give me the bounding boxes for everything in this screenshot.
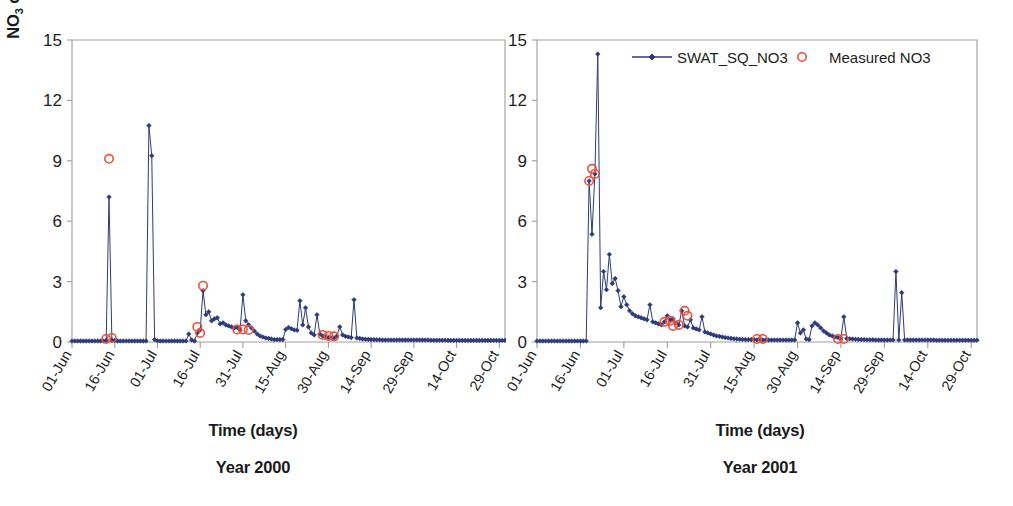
y-tick-label: 12	[508, 91, 527, 110]
data-point-diamond	[147, 123, 152, 128]
x-tick-label: 15-Aug	[719, 348, 756, 397]
series-markers-measured-no3	[102, 155, 338, 344]
x-tick-label: 15-Aug	[251, 348, 288, 397]
data-point-diamond	[613, 276, 618, 281]
data-point-diamond	[315, 313, 320, 318]
x-tick-label: 29-Oct	[466, 347, 502, 393]
data-point-diamond	[604, 287, 609, 292]
series-markers-swat-sq-no3	[70, 123, 506, 343]
data-point-diamond	[590, 232, 595, 237]
legend-label-measured-no3: Measured NO3	[829, 49, 931, 66]
data-point-diamond	[298, 298, 303, 303]
x-tick-label: 14-Sep	[336, 348, 373, 397]
y-tick-label: 12	[43, 91, 62, 110]
x-tick-label: 01-Jul	[593, 348, 627, 390]
x-tick-label: 14-Oct	[895, 348, 931, 394]
x-tick-label: 31-Jul	[212, 348, 246, 390]
data-point-diamond	[352, 297, 357, 302]
legend-label-swat-sq-no3: SWAT_SQ_NO3	[677, 49, 788, 66]
data-point-diamond	[241, 292, 246, 297]
data-point-diamond	[303, 305, 308, 310]
data-point-diamond	[648, 302, 653, 307]
data-point-diamond	[598, 305, 603, 310]
data-point-diamond	[610, 281, 615, 286]
series-line-swat-sq-no3	[537, 54, 977, 341]
data-point-diamond	[149, 153, 154, 158]
x-tick-label: 30-Aug	[294, 348, 331, 397]
data-point-diamond	[616, 288, 621, 293]
series-line-swat-sq-no3	[72, 126, 505, 341]
plot-area-left: 0369121501-Jun16-Jun01-Jul16-Jul31-Jul15…	[0, 0, 506, 420]
plot-area-right: 0369121501-Jun16-Jun01-Jul16-Jul31-Jul15…	[507, 0, 1013, 420]
panel-caption-year-2001: Year 2001	[507, 458, 1013, 477]
data-point-diamond	[619, 304, 624, 309]
data-point-diamond	[899, 290, 904, 295]
legend-swatch-swat-diamond	[649, 54, 655, 60]
y-tick-label: 6	[53, 212, 62, 231]
chart-legend: SWAT_SQ_NO3Measured NO3	[632, 49, 931, 66]
data-point-measured-circle	[105, 155, 113, 163]
data-point-diamond	[795, 321, 800, 326]
x-tick-label: 31-Jul	[680, 348, 714, 390]
plot-frame	[72, 40, 505, 342]
x-tick-label: 01-Jun	[507, 348, 540, 394]
data-point-diamond	[587, 179, 592, 184]
series-markers-measured-no3	[585, 165, 848, 344]
x-tick-label: 16-Jun	[81, 348, 117, 394]
y-tick-label: 15	[508, 31, 527, 50]
data-point-diamond	[595, 52, 600, 57]
data-point-diamond	[184, 339, 189, 344]
x-axis-label-left: Time (days)	[0, 421, 506, 440]
y-tick-label: 9	[53, 152, 62, 171]
x-axis-label-right: Time (days)	[507, 421, 1013, 440]
x-tick-label: 01-Jul	[126, 348, 160, 390]
data-point-diamond	[281, 337, 286, 342]
x-tick-label: 29-Sep	[379, 348, 416, 397]
data-point-diamond	[584, 339, 589, 344]
data-point-diamond	[607, 252, 612, 257]
data-point-diamond	[622, 294, 627, 299]
x-tick-label: 29-Sep	[850, 348, 887, 397]
data-point-diamond	[601, 269, 606, 274]
x-tick-label: 14-Oct	[424, 348, 460, 394]
x-tick-label: 01-Jun	[39, 348, 75, 394]
y-tick-label: 3	[518, 273, 527, 292]
chart-panel-year-2000: NO3 concentration (mg/l) 0369121501-Jun1…	[0, 0, 506, 506]
panel-caption-year-2000: Year 2000	[0, 458, 506, 477]
y-tick-label: 6	[518, 212, 527, 231]
plot-frame	[537, 40, 977, 342]
data-point-diamond	[300, 323, 305, 328]
x-tick-label: 14-Sep	[806, 348, 843, 397]
data-point-diamond	[624, 302, 629, 307]
data-point-diamond	[700, 315, 705, 320]
chart-panel-year-2001: 0369121501-Jun16-Jun01-Jul16-Jul31-Jul15…	[507, 0, 1013, 506]
data-point-diamond	[107, 195, 112, 200]
legend-swatch-measured-circle	[798, 53, 806, 61]
data-point-diamond	[337, 325, 342, 330]
y-tick-label: 15	[43, 31, 62, 50]
x-tick-label: 16-Jul	[169, 348, 203, 390]
y-tick-label: 9	[518, 152, 527, 171]
x-tick-label: 16-Jul	[636, 348, 670, 390]
figure-root: NO3 concentration (mg/l) 0369121501-Jun1…	[0, 0, 1013, 506]
y-tick-label: 3	[53, 273, 62, 292]
x-tick-label: 30-Aug	[763, 348, 800, 397]
x-tick-label: 16-Jun	[547, 348, 583, 394]
data-point-diamond	[186, 332, 191, 337]
data-point-diamond	[894, 269, 899, 274]
data-point-diamond	[144, 339, 149, 344]
data-point-diamond	[306, 325, 311, 330]
x-tick-label: 29-Oct	[938, 348, 974, 394]
data-point-diamond	[842, 315, 847, 320]
